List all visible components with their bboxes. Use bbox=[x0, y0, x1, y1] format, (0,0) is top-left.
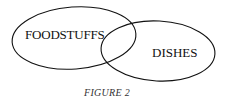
figure-caption: FIGURE 2 bbox=[84, 87, 130, 98]
foodstuffs-label: FOODSTUFFS bbox=[25, 27, 105, 43]
dishes-label: DISHES bbox=[152, 45, 198, 61]
